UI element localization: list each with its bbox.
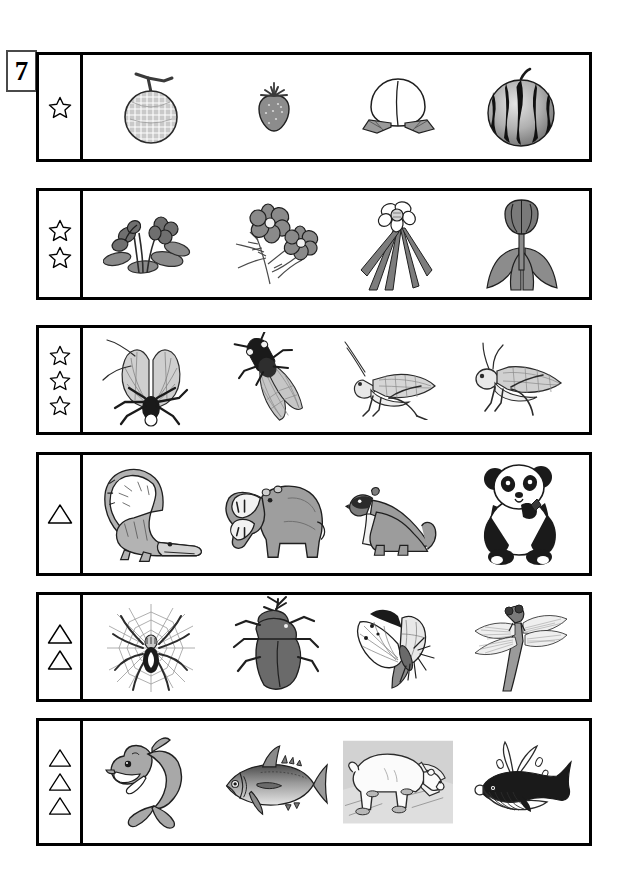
- worksheet-row[interactable]: [36, 452, 592, 576]
- triangle-outline-icon: [48, 796, 72, 816]
- cicada-icon: [228, 332, 320, 428]
- narcissus-bloom: [376, 200, 418, 233]
- item-weasel[interactable]: [343, 457, 453, 571]
- triangle-outline-icon: [47, 649, 73, 671]
- item-whale[interactable]: [466, 723, 576, 841]
- crocodile-icon: [96, 462, 206, 566]
- marker-cell: [39, 595, 83, 699]
- violet-flower-icon: [103, 201, 199, 287]
- items-cell: [83, 721, 589, 843]
- item-peach[interactable]: [343, 57, 453, 157]
- dolphin-icon: [104, 730, 198, 834]
- panda-icon: [475, 461, 567, 567]
- rhinoceros-beetle-icon: [228, 595, 320, 699]
- item-violet[interactable]: [96, 193, 206, 295]
- items-cell: [83, 328, 589, 432]
- item-watermelon[interactable]: [466, 57, 576, 157]
- worksheet-row[interactable]: [36, 188, 592, 300]
- item-cicada[interactable]: [219, 330, 329, 430]
- item-dragonfly[interactable]: [466, 597, 576, 697]
- item-strawberry[interactable]: [219, 57, 329, 157]
- item-rhinoceros-beetle[interactable]: [219, 597, 329, 697]
- worksheet-row[interactable]: [36, 325, 592, 435]
- worksheet-row[interactable]: [36, 52, 592, 162]
- whale-icon: [467, 734, 575, 830]
- marker-cell: [39, 721, 83, 843]
- item-tuna[interactable]: [219, 723, 329, 841]
- melon-icon: [108, 64, 194, 150]
- item-tulip[interactable]: [466, 193, 576, 295]
- item-narcissus[interactable]: [343, 193, 453, 295]
- problem-number-box: 7: [6, 50, 37, 92]
- katydid-icon: [343, 340, 453, 420]
- cosmos-flower-icon: [222, 198, 326, 290]
- narcissus-flower-icon: [355, 196, 441, 292]
- item-lantern-fly[interactable]: [96, 330, 206, 430]
- problem-number-label: 7: [15, 58, 29, 85]
- item-butterfly[interactable]: [343, 597, 453, 697]
- items-cell: [83, 455, 589, 573]
- item-melon[interactable]: [96, 57, 206, 157]
- marker-cell: [39, 55, 83, 159]
- item-katydid[interactable]: [343, 330, 453, 430]
- items-cell: [83, 191, 589, 297]
- grasshopper-icon: [467, 341, 575, 419]
- item-polar-bear[interactable]: [343, 723, 453, 841]
- marker-cell: [39, 455, 83, 573]
- dragonfly-icon: [467, 597, 575, 697]
- item-cosmos[interactable]: [219, 193, 329, 295]
- butterfly-icon: [348, 598, 448, 696]
- triangle-outline-icon: [47, 503, 73, 525]
- cosmos-bloom-lower: [282, 226, 321, 262]
- item-spider-on-web[interactable]: [96, 597, 206, 697]
- marker-cell: [39, 328, 83, 432]
- lantern-fly-icon: [101, 332, 201, 428]
- item-crocodile[interactable]: [96, 457, 206, 571]
- worksheet-row[interactable]: [36, 592, 592, 702]
- worksheet-row[interactable]: [36, 718, 592, 846]
- star-outline-icon: [48, 219, 72, 242]
- triangle-outline-icon: [48, 772, 72, 792]
- polar-bear-icon: [343, 734, 453, 830]
- item-grasshopper[interactable]: [466, 330, 576, 430]
- marker-cell: [39, 191, 83, 297]
- star-outline-icon: [49, 345, 71, 366]
- item-dolphin[interactable]: [96, 723, 206, 841]
- hippopotamus-icon: [219, 462, 329, 566]
- star-outline-icon: [49, 395, 71, 416]
- tuna-icon: [219, 740, 329, 824]
- item-panda[interactable]: [466, 457, 576, 571]
- strawberry-icon: [251, 79, 297, 135]
- triangle-outline-icon: [48, 748, 72, 768]
- item-hippopotamus[interactable]: [219, 457, 329, 571]
- watermelon-icon: [482, 65, 560, 149]
- star-outline-icon: [48, 96, 72, 119]
- star-outline-icon: [48, 246, 72, 269]
- items-cell: [83, 595, 589, 699]
- peach-icon: [355, 71, 441, 143]
- star-outline-icon: [49, 370, 71, 391]
- weasel-icon: [343, 468, 453, 560]
- tulip-bloom: [505, 200, 538, 234]
- spider-web-icon: [99, 598, 203, 696]
- tulip-flower-icon: [479, 196, 563, 292]
- triangle-outline-icon: [47, 623, 73, 645]
- worksheet-page: 7: [0, 0, 624, 895]
- items-cell: [83, 55, 589, 159]
